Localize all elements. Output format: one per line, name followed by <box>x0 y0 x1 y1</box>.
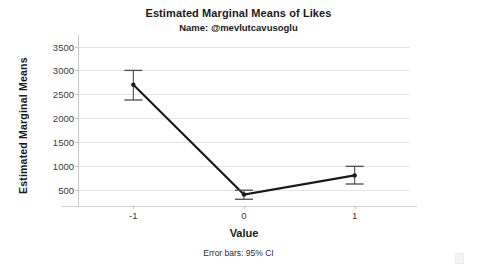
gridline <box>78 166 410 167</box>
y-axis-line <box>78 35 79 207</box>
y-axis-tick-label: 1000 <box>40 160 74 171</box>
x-axis-tick-mark <box>355 206 356 209</box>
gridline <box>78 190 410 191</box>
x-axis-tick-mark <box>244 206 245 209</box>
estimated-marginal-means-chart: Estimated Marginal Means of Likes Name: … <box>0 0 477 271</box>
chart-title: Estimated Marginal Means of Likes <box>0 7 477 19</box>
y-axis-tick-mark <box>75 190 78 191</box>
error-bar-footnote: Error bars: 95% CI <box>0 248 477 258</box>
y-axis-title: Estimated Marginal Means <box>14 46 32 206</box>
y-axis-tick-mark <box>75 70 78 71</box>
corner-artifact <box>455 253 464 264</box>
y-axis-tick-label: 500 <box>40 184 74 195</box>
y-axis-tick-labels: 500100015002000250030003500 <box>38 37 74 205</box>
y-axis-tick-label: 1500 <box>40 137 74 148</box>
y-axis-tick-label: 3500 <box>40 41 74 52</box>
gridline <box>78 142 410 143</box>
y-axis-tick-label: 2500 <box>40 89 74 100</box>
y-axis-tick-mark <box>75 166 78 167</box>
gridline <box>78 118 410 119</box>
y-axis-tick-mark <box>75 118 78 119</box>
x-axis-tick-mark <box>133 206 134 209</box>
x-axis-tick-label: 0 <box>224 210 264 221</box>
y-axis-tick-mark <box>75 47 78 48</box>
x-axis-tick-label: 1 <box>335 210 375 221</box>
x-axis-title: Value <box>78 227 410 239</box>
y-axis-tick-mark <box>75 142 78 143</box>
plot-area <box>78 37 410 205</box>
y-axis-tick-label: 2000 <box>40 113 74 124</box>
gridline <box>78 70 410 71</box>
x-axis-tick-label: -1 <box>113 210 153 221</box>
chart-subtitle: Name: @mevlutcavusoglu <box>0 22 477 33</box>
gridline <box>78 47 410 48</box>
gridline <box>78 94 410 95</box>
x-axis-line <box>62 206 417 207</box>
y-axis-tick-mark <box>75 94 78 95</box>
y-axis-tick-label: 3000 <box>40 65 74 76</box>
